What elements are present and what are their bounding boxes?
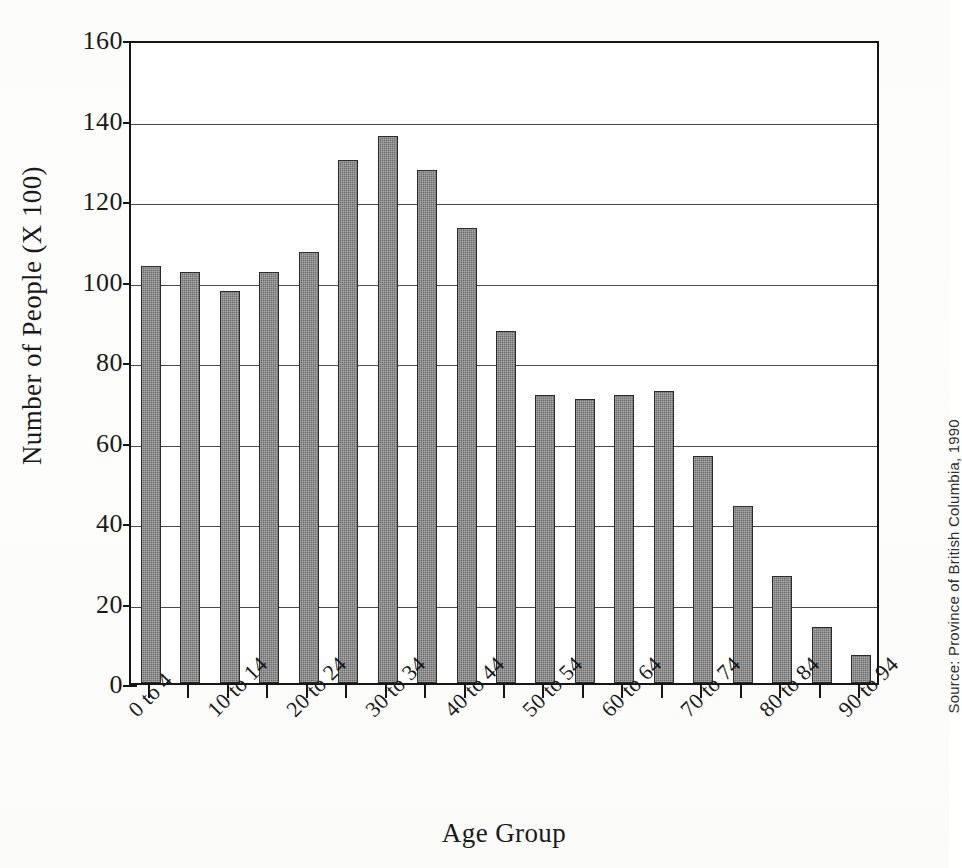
y-tick-label: 80 (61, 350, 123, 376)
y-axis: 020406080100120140160 (48, 41, 123, 685)
y-tick-label: 0 (61, 672, 123, 698)
x-tick-mark (740, 685, 742, 698)
x-tick-mark (503, 685, 505, 698)
bar (614, 395, 634, 683)
y-tick-label: 140 (61, 109, 123, 135)
x-axis-title: Age Group (129, 818, 879, 849)
bar (180, 272, 200, 683)
bar-series (131, 43, 877, 683)
y-tick-label: 160 (61, 28, 123, 54)
y-tick-label: 20 (61, 592, 123, 618)
bar (496, 331, 516, 683)
y-tick-label: 40 (61, 511, 123, 537)
x-tick-mark (819, 685, 821, 698)
y-axis-title: Number of People (X 100) (17, 36, 48, 596)
source-note: Source: Province of British Columbia, 19… (945, 374, 962, 714)
x-tick-mark (424, 685, 426, 698)
y-tick-label: 100 (61, 270, 123, 296)
bar (535, 395, 555, 683)
y-tick-label: 120 (61, 189, 123, 215)
x-tick-mark (582, 685, 584, 698)
bar (220, 291, 240, 683)
bar (299, 252, 319, 683)
x-tick-mark (266, 685, 268, 698)
bar (457, 228, 477, 683)
x-tick-mark (345, 685, 347, 698)
bar (378, 136, 398, 683)
bar (654, 391, 674, 683)
bar (417, 170, 437, 683)
bar (338, 160, 358, 683)
bar (693, 456, 713, 683)
bar (733, 506, 753, 683)
x-tick-mark (661, 685, 663, 698)
plot-area (129, 41, 879, 685)
y-tick-label: 60 (61, 431, 123, 457)
bar (575, 399, 595, 683)
bar (141, 266, 161, 683)
bar (259, 272, 279, 683)
x-tick-mark (187, 685, 189, 698)
